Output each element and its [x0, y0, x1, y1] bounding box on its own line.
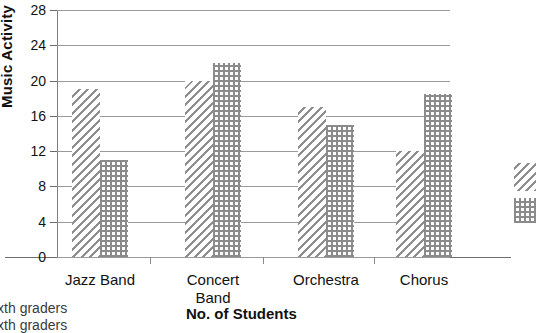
- gridline: [57, 116, 450, 117]
- y-tick-label: 28: [30, 3, 46, 17]
- x-axis-tick: [150, 257, 151, 264]
- gridline: [57, 81, 450, 82]
- x-axis-title: No. of Students: [186, 305, 386, 322]
- y-axis-tick: [50, 257, 57, 258]
- x-axis-tick: [374, 257, 375, 264]
- category-label: Jazz Band: [40, 271, 160, 289]
- y-axis-title: Music Activity: [0, 0, 15, 108]
- y-axis-tick: [50, 222, 57, 223]
- legend-swatch: [514, 198, 536, 223]
- gridline: [57, 45, 450, 46]
- bar: [396, 151, 424, 257]
- y-tick-label: 20: [30, 74, 46, 88]
- y-tick-label: 0: [38, 250, 46, 264]
- y-axis-tick: [50, 81, 57, 82]
- y-tick-label: 16: [30, 109, 46, 123]
- x-axis-tick: [263, 257, 264, 264]
- bar: [185, 81, 213, 257]
- category-label: Chorus: [364, 271, 484, 289]
- bar: [298, 107, 326, 257]
- y-tick-label: 8: [38, 179, 46, 193]
- y-tick-label: 4: [38, 215, 46, 229]
- bar: [326, 125, 354, 257]
- y-axis-tick: [50, 151, 57, 152]
- bar: [100, 160, 128, 257]
- bar: [72, 89, 100, 257]
- y-axis-tick: [50, 10, 57, 11]
- gridline: [57, 151, 450, 152]
- category-label: Concert Band: [153, 271, 273, 307]
- y-axis-tick: [50, 186, 57, 187]
- y-axis-tick: [50, 116, 57, 117]
- legend-label: ixth graders: [0, 317, 67, 333]
- gridline: [57, 10, 450, 11]
- legend-swatch: [514, 163, 536, 191]
- bar: [424, 94, 452, 257]
- plot-area: [57, 10, 450, 257]
- bar: [213, 63, 241, 257]
- y-tick-label: 24: [30, 38, 46, 52]
- y-axis-tick: [50, 45, 57, 46]
- legend-label: ixth graders: [0, 300, 67, 316]
- y-tick-label: 12: [30, 144, 46, 158]
- gridline: [57, 257, 450, 258]
